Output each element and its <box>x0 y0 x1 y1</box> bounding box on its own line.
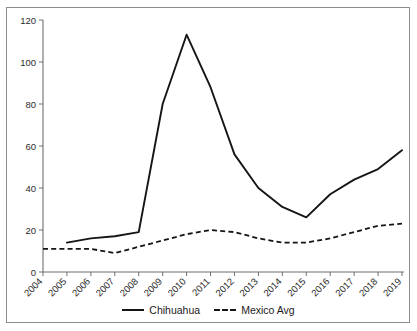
y-axis-ticks: 020406080100120 <box>20 15 43 278</box>
x-tick-label: 2019 <box>381 276 404 299</box>
legend-label-mexico-avg: Mexico Avg <box>241 304 295 316</box>
x-tick-label: 2008 <box>117 276 140 299</box>
x-tick-label: 2010 <box>165 276 188 299</box>
series-line-chihuahua <box>67 35 402 243</box>
x-tick-label: 2018 <box>357 276 380 299</box>
x-tick-label: 2017 <box>333 276 356 299</box>
legend-item-chihuahua: Chihuahua <box>122 304 200 316</box>
y-tick-label: 120 <box>20 15 36 26</box>
x-tick-label: 2005 <box>46 276 69 299</box>
legend-dashed-line-icon <box>214 309 236 311</box>
y-tick-label: 20 <box>25 225 36 236</box>
chart-legend: Chihuahua Mexico Avg <box>0 304 417 316</box>
legend-solid-line-icon <box>122 309 144 311</box>
x-tick-label: 2011 <box>190 276 212 298</box>
y-tick-label: 100 <box>20 57 36 68</box>
x-tick-label: 2014 <box>261 276 284 299</box>
x-tick-label: 2012 <box>213 276 236 299</box>
chart-figure: 020406080100120 200420052006200720082009… <box>0 0 417 331</box>
y-tick-label: 60 <box>25 141 36 152</box>
line-chart-plot: 020406080100120 200420052006200720082009… <box>0 0 417 331</box>
x-tick-label: 2004 <box>22 276 45 299</box>
x-tick-label: 2009 <box>141 276 164 299</box>
legend-label-chihuahua: Chihuahua <box>149 304 200 316</box>
x-tick-label: 2013 <box>237 276 260 299</box>
legend-item-mexico-avg: Mexico Avg <box>214 304 295 316</box>
x-tick-label: 2015 <box>285 276 308 299</box>
y-tick-label: 80 <box>25 99 36 110</box>
x-axis-ticks: 2004200520062007200820092010201120122013… <box>22 272 404 298</box>
x-tick-label: 2016 <box>309 276 332 299</box>
x-tick-label: 2007 <box>93 276 116 299</box>
x-tick-label: 2006 <box>70 276 93 299</box>
y-tick-label: 40 <box>25 183 36 194</box>
